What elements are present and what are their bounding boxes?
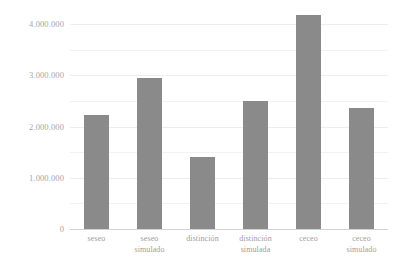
y-axis-tick-label: 4.000.000 (0, 19, 64, 29)
plot-area (70, 10, 388, 229)
y-axis-tick-label: 1.000.000 (0, 173, 64, 183)
bar-slot (70, 10, 123, 229)
bar-slot (335, 10, 388, 229)
x-axis-category-label: ceceo simulado (335, 234, 388, 255)
bar[interactable] (137, 78, 162, 229)
bar-slot (229, 10, 282, 229)
category-axis-line (70, 229, 388, 230)
bar[interactable] (84, 115, 109, 229)
bar-slot (123, 10, 176, 229)
bar[interactable] (349, 108, 374, 229)
x-axis-category-label: seseo simulado (123, 234, 176, 255)
x-axis-category-label: distinción (176, 234, 229, 245)
y-axis-tick-label: 3.000.000 (0, 70, 64, 80)
bar[interactable] (190, 157, 215, 229)
x-axis-category-label: ceceo (282, 234, 335, 245)
bar-slot (282, 10, 335, 229)
x-axis-category-label: seseo (70, 234, 123, 245)
bar[interactable] (243, 101, 268, 229)
bar-slot (176, 10, 229, 229)
y-axis-tick-label: 0 (0, 224, 64, 234)
bar[interactable] (296, 15, 321, 229)
bar-chart: 01.000.0002.000.0003.000.0004.000.000 se… (0, 0, 394, 278)
x-axis-category-label: distinción simulada (229, 234, 282, 255)
y-axis-tick-label: 2.000.000 (0, 122, 64, 132)
